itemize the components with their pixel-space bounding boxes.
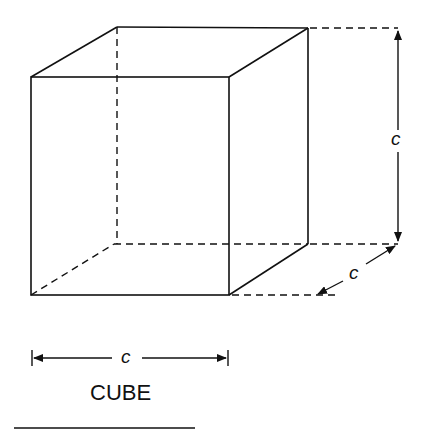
depth-label: c — [349, 262, 359, 284]
figure-title: CUBE — [90, 380, 151, 406]
cube-diagram — [0, 0, 429, 434]
cube-front-face — [31, 77, 229, 295]
height-label: c — [391, 128, 401, 150]
width-label: c — [121, 346, 131, 368]
